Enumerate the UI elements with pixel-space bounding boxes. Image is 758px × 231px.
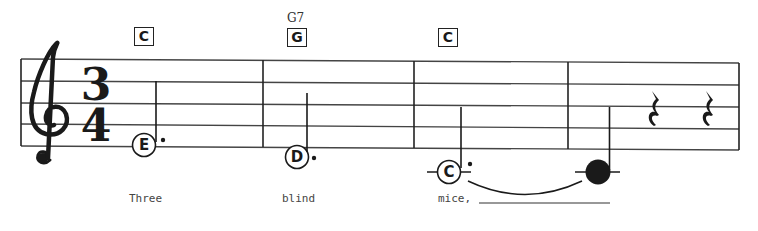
lyric-three: Three: [129, 193, 162, 204]
music-staff: 3 4: [0, 0, 758, 231]
note-letter-d: D: [287, 150, 307, 165]
augmentation-dot: [312, 156, 316, 160]
lyric-blind: blind: [282, 193, 315, 204]
note-c-quarter-filled: [575, 107, 620, 185]
chord-box-c-1: C: [134, 27, 154, 46]
quarter-rest-icon: [649, 91, 659, 126]
note-letter-c: C: [439, 165, 459, 180]
augmentation-dot: [468, 162, 472, 166]
chord-name-g7: G7: [287, 12, 304, 24]
staff-lines: [21, 59, 739, 150]
time-signature-bottom: 4: [81, 100, 112, 151]
tie-arc: [468, 181, 582, 195]
chord-box-c-2: C: [438, 28, 458, 47]
note-letter-e: E: [134, 138, 154, 153]
chord-box-g: G: [287, 28, 307, 47]
lyric-mice: mice,: [438, 193, 471, 204]
augmentation-dot: [161, 138, 165, 142]
quarter-rest-icon: [703, 91, 713, 126]
